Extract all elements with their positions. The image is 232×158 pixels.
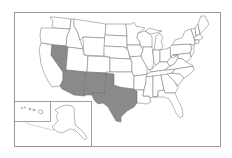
us-map bbox=[0, 0, 232, 158]
state-kansas bbox=[110, 58, 132, 72]
state-new-mexico bbox=[84, 72, 106, 96]
inset-frame bbox=[15, 102, 92, 147]
state-wyoming bbox=[83, 37, 105, 56]
state-iowa bbox=[127, 45, 143, 57]
state-colorado bbox=[87, 56, 110, 73]
state-connecticut bbox=[195, 40, 199, 44]
state-north-dakota bbox=[105, 24, 127, 36]
state-oregon bbox=[40, 28, 70, 46]
alaska-hawaii-inset bbox=[15, 102, 92, 147]
state-washington bbox=[50, 17, 71, 29]
